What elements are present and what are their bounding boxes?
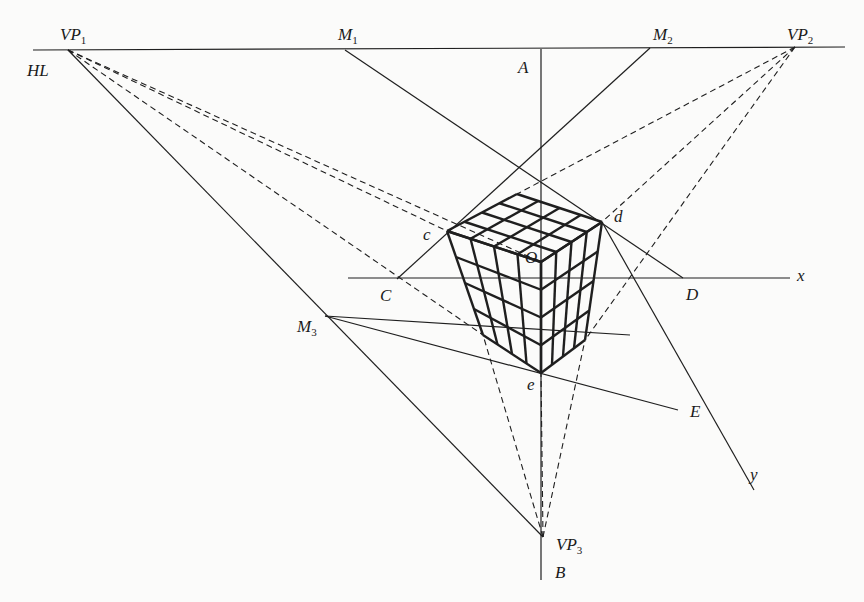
- line-M3-E: [325, 316, 678, 410]
- label-M3: M3: [296, 317, 317, 338]
- dashed-line-VP2-T: [517, 47, 795, 194]
- cube: [447, 194, 602, 373]
- label-M1: M1: [337, 25, 358, 46]
- label-x: x: [796, 266, 805, 285]
- cube-top-face-grid-u3: [500, 203, 587, 232]
- label-C: C: [380, 286, 392, 305]
- perspective-diagram: VP1HLM1AM2VP2cdOxCDM3eEyVP3B Three-point…: [0, 0, 864, 602]
- label-O: O: [525, 248, 537, 267]
- label-B: B: [555, 563, 566, 582]
- label-c: c: [423, 225, 431, 244]
- label-y: y: [748, 465, 758, 484]
- dashed-line-VP1-O: [68, 50, 541, 262]
- dashed-line-VP1-L: [68, 50, 483, 335]
- line-VP1-VP3: [68, 50, 543, 537]
- label-VP1: VP1: [60, 25, 86, 46]
- cube-top-face-grid-u4: [517, 194, 602, 222]
- label-VP2: VP2: [787, 25, 813, 46]
- line-M2-C: [397, 48, 650, 279]
- label-M2: M2: [652, 25, 673, 46]
- dashed-line-VP2-d: [602, 47, 795, 222]
- cube-top-face-grid-v2: [494, 208, 560, 247]
- line-M1-D: [345, 50, 683, 278]
- label-e: e: [527, 375, 535, 394]
- cube-right-face-grid-u4: [585, 222, 602, 340]
- line-d-yEnd: [602, 222, 754, 490]
- label-d: d: [614, 207, 623, 226]
- construction-lines: [33, 47, 845, 580]
- label-HL: HL: [26, 61, 49, 80]
- label-E: E: [689, 402, 701, 421]
- label-VP3: VP3: [556, 535, 583, 556]
- label-D: D: [685, 285, 699, 304]
- point-labels: VP1HLM1AM2VP2cdOxCDM3eEyVP3B: [26, 25, 813, 582]
- cube-left-face-grid-u3: [518, 254, 527, 363]
- line-HL0-HL1: [33, 47, 845, 50]
- diagram-canvas: VP1HLM1AM2VP2cdOxCDM3eEyVP3B: [0, 0, 864, 602]
- cube-right-face-grid-u3: [574, 232, 587, 348]
- dashed-line-VP1-c: [68, 50, 447, 231]
- dashed-line-VP3-R: [543, 340, 585, 537]
- label-A: A: [517, 58, 529, 77]
